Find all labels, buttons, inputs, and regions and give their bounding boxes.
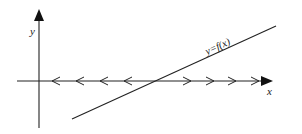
phase-line-diagram: y x y=f(x) bbox=[0, 0, 302, 134]
function-line bbox=[72, 26, 276, 119]
diagram-svg: y x y=f(x) bbox=[0, 0, 302, 134]
function-label: y=f(x) bbox=[202, 36, 232, 58]
x-axis bbox=[17, 76, 273, 86]
x-axis-label: x bbox=[266, 85, 272, 97]
y-axis-arrowhead-icon bbox=[34, 9, 44, 21]
y-axis-label: y bbox=[29, 25, 35, 37]
y-axis bbox=[34, 9, 44, 128]
